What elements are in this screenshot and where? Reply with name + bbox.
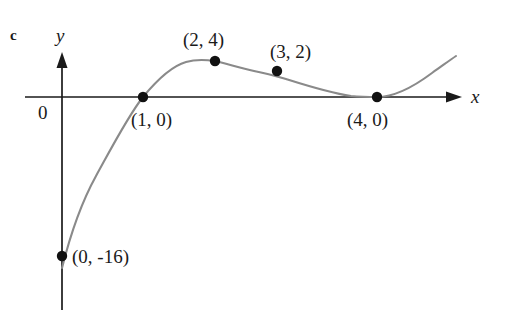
y-axis-label: y [56,26,64,45]
data-point-3 [272,66,282,76]
graph-canvas [0,0,507,315]
point-label-3: (3, 2) [270,42,311,61]
point-label-4: (4, 0) [347,110,388,129]
point-label-1: (1, 0) [131,110,172,129]
part-label: c [10,28,17,43]
point-label-0: (0, -16) [72,247,129,266]
data-point-0 [57,251,67,261]
curve-path [62,56,456,268]
x-axis-label: x [471,87,479,106]
data-point-2 [210,56,220,66]
origin-label: 0 [38,103,48,122]
figure-container: c y x 0 (0, -16) (1, 0) (2, 4) (3, 2) (4… [0,0,507,315]
point-label-2: (2, 4) [183,30,224,49]
data-point-1 [138,92,148,102]
y-axis [57,52,68,310]
data-point-4 [372,92,382,102]
